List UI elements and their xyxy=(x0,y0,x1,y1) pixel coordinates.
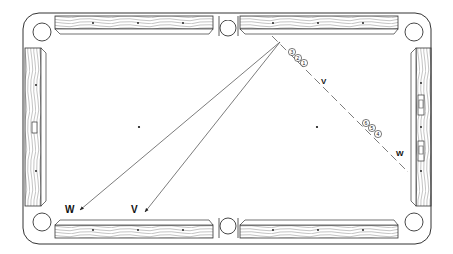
bottom-left-rail xyxy=(55,220,213,238)
top-left-rail xyxy=(55,16,213,34)
svg-text:6: 6 xyxy=(365,120,368,126)
foot-spot xyxy=(316,126,318,128)
svg-text:3: 3 xyxy=(291,49,294,55)
pocket-bottom-middle xyxy=(220,218,236,234)
billiards-diagram: 3 2 1 6 5 4 V W W V xyxy=(0,0,453,254)
pocket-top-left xyxy=(33,23,51,41)
pocket-bottom-right xyxy=(405,213,423,231)
svg-text:4: 4 xyxy=(377,131,380,137)
top-right-rail xyxy=(240,16,398,34)
left-diamond-marker xyxy=(32,122,37,133)
pocket-bottom-left xyxy=(33,213,51,231)
svg-text:2: 2 xyxy=(297,55,300,61)
left-rail xyxy=(25,48,46,206)
label-v-upper: V xyxy=(321,77,327,86)
pocket-top-middle xyxy=(220,20,236,36)
pocket-top-right xyxy=(405,23,423,41)
label-v-bottom: V xyxy=(131,204,138,215)
label-w-bottom: W xyxy=(65,204,75,215)
svg-text:1: 1 xyxy=(303,60,306,66)
bottom-right-rail xyxy=(240,220,398,238)
head-spot xyxy=(138,126,140,128)
label-w-right: W xyxy=(396,149,404,158)
right-rail xyxy=(411,48,431,206)
svg-text:5: 5 xyxy=(371,125,374,131)
